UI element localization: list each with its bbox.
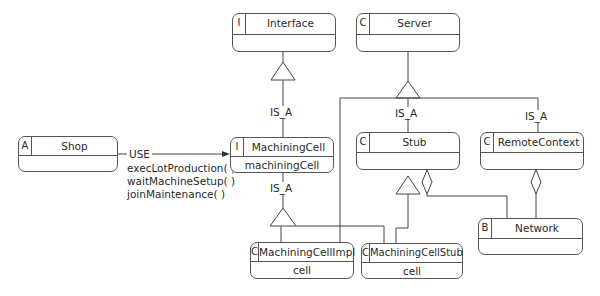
class-attribute: machiningCell [231, 157, 333, 172]
use-operations: execLotProduction( ) waitMachineSetup( )… [127, 162, 235, 201]
isa-label-machiningcell: IS_A [270, 182, 292, 194]
stereotype-tag: C [357, 14, 370, 34]
class-server[interactable]: CServer [356, 13, 460, 52]
stub-network-line [427, 194, 507, 218]
operation-wait-machine-setup: waitMachineSetup( ) [127, 175, 235, 188]
stereotype-tag: C [362, 244, 370, 262]
isa-label-interface: IS_A [270, 106, 292, 118]
stereotype-tag: B [479, 219, 492, 238]
isa-label-remotecontext: IS_A [525, 110, 547, 122]
use-arrowhead [222, 151, 230, 157]
class-attribute: cell [362, 263, 462, 278]
class-machining-cell[interactable]: IMachiningCell machiningCell [230, 137, 334, 173]
class-name: Stub [370, 133, 459, 152]
class-machining-cell-impl[interactable]: CMachiningCellImpl cell [250, 242, 354, 279]
class-name: MachiningCellImpl [259, 243, 355, 261]
class-name: Interface [246, 14, 335, 34]
class-name: Network [492, 219, 582, 238]
class-name: MachiningCellStub [370, 244, 463, 262]
class-attribute: cell [251, 262, 353, 278]
class-interface[interactable]: IInterface [232, 13, 336, 52]
isa-label-stub: IS_A [395, 107, 417, 119]
stereotype-tag: C [357, 133, 370, 152]
interface-inheritance-triangle [271, 62, 295, 80]
operation-exec-lot-production: execLotProduction( ) [127, 162, 235, 175]
class-name: Shop [32, 137, 117, 155]
stub-inheritance-triangle [396, 176, 420, 194]
class-name: MachiningCell [244, 138, 333, 156]
stubclass-to-stub-line [396, 194, 408, 243]
remotecontext-aggregation-diamond [531, 170, 541, 194]
use-label: USE [127, 148, 152, 160]
stereotype-tag: C [481, 133, 494, 152]
server-inheritance-triangle [396, 81, 420, 98]
stereotype-tag: A [19, 137, 32, 155]
class-shop[interactable]: AShop [18, 136, 118, 172]
class-machining-cell-stub[interactable]: CMachiningCellStub cell [361, 243, 463, 279]
class-stub[interactable]: CStub [356, 132, 460, 170]
stub-aggregation-diamond [422, 170, 432, 194]
stereotype-tag: C [251, 243, 259, 261]
stereotype-tag: I [233, 14, 246, 34]
class-name: Server [370, 14, 459, 34]
class-network[interactable]: BNetwork [478, 218, 583, 255]
class-name: RemoteContext [494, 133, 583, 152]
class-remote-context[interactable]: CRemoteContext [480, 132, 584, 170]
machiningcell-inheritance-triangle [270, 208, 296, 226]
stereotype-tag: I [231, 138, 244, 156]
operation-join-maintenance: joinMaintenance( ) [127, 188, 235, 201]
